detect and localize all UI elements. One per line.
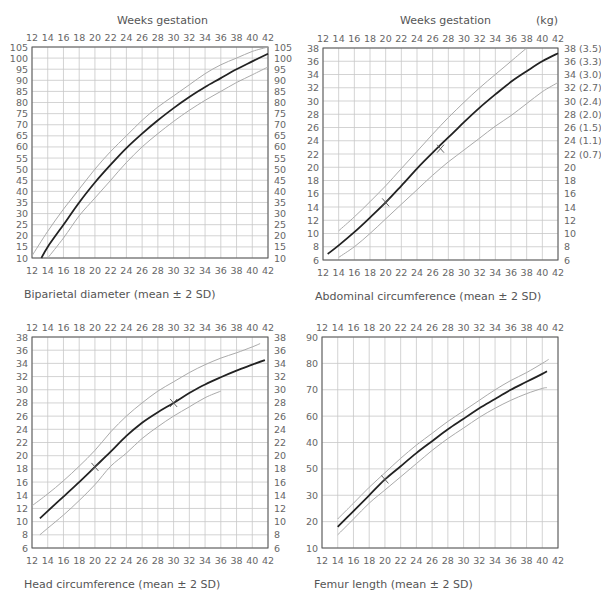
x-tick-label-bottom: 40 bbox=[536, 555, 548, 566]
y-tick-label-right: 10 bbox=[274, 253, 286, 264]
y-tick-label-left: 12 bbox=[16, 503, 28, 514]
x-tick-label-bottom: 26 bbox=[136, 265, 148, 276]
x-tick-label-top: 18 bbox=[73, 32, 85, 43]
y-tick-label-left: 20 bbox=[16, 450, 28, 461]
y-tick-label-right: 10 bbox=[564, 228, 576, 239]
x-tick-label-top: 40 bbox=[536, 322, 548, 333]
x-tick-label-top: 18 bbox=[363, 322, 375, 333]
x-tick-label-bottom: 40 bbox=[246, 265, 258, 276]
y-tick-label-right: 65 bbox=[274, 130, 286, 141]
x-tick-label-top: 34 bbox=[489, 33, 501, 44]
x-tick-label-top: 26 bbox=[136, 32, 148, 43]
x-tick-label-bottom: 12 bbox=[316, 555, 328, 566]
y-tick-label-right: 14 bbox=[564, 202, 576, 213]
y-tick-label-left: 40 bbox=[16, 186, 28, 197]
y-tick-label-right: 55 bbox=[274, 153, 286, 164]
x-tick-label-bottom: 32 bbox=[183, 265, 195, 276]
x-tick-label-bottom: 24 bbox=[120, 555, 132, 566]
y-tick-label-left: 18 bbox=[307, 175, 319, 186]
y-tick-label-right: 30 bbox=[274, 208, 286, 219]
y-tick-label-left: 24 bbox=[16, 424, 28, 435]
x-tick-label-bottom: 42 bbox=[262, 555, 274, 566]
y-tick-label-left: 45 bbox=[16, 175, 28, 186]
chart-caption: Femur length (mean ± 2 SD) bbox=[314, 578, 473, 591]
y-tick-label-left: 8 bbox=[22, 529, 28, 540]
x-tick-label-top: 40 bbox=[246, 32, 258, 43]
y-tick-label-left: 15 bbox=[16, 241, 28, 252]
y-tick-label-right: 6 bbox=[274, 543, 280, 554]
y-tick-label-left: 70 bbox=[306, 384, 318, 395]
x-tick-label-top: 20 bbox=[89, 32, 101, 43]
x-tick-label-top: 32 bbox=[183, 322, 195, 333]
y-tick-label-right: 26 bbox=[274, 411, 286, 422]
y-tick-label-right: 70 bbox=[274, 119, 286, 130]
y-tick-label-right: 75 bbox=[274, 108, 286, 119]
x-tick-label-top: 42 bbox=[262, 322, 274, 333]
y-tick-label-left: 14 bbox=[307, 202, 319, 213]
x-tick-label-top: 32 bbox=[473, 322, 485, 333]
x-tick-label-bottom: 16 bbox=[347, 555, 359, 566]
y-tick-label-left: 26 bbox=[307, 122, 319, 133]
chart-caption: Biparietal diameter (mean ± 2 SD) bbox=[24, 288, 216, 301]
y-tick-label-right: 30 bbox=[274, 384, 286, 395]
y-tick-label-left: 6 bbox=[313, 255, 319, 266]
grid bbox=[32, 337, 268, 548]
y-tick-label-left: 50 bbox=[16, 164, 28, 175]
x-tick-label-top: 30 bbox=[458, 33, 470, 44]
kg-unit-label: (kg) bbox=[536, 14, 558, 27]
y-tick-label-right: 20 bbox=[564, 162, 576, 173]
x-tick-label-top: 22 bbox=[105, 322, 117, 333]
x-tick-label-top: 38 bbox=[520, 322, 532, 333]
chart-panel-biparietal-diameter: 1212141416161818202022222424262628283030… bbox=[10, 32, 292, 301]
y-tick-label-left: 12 bbox=[307, 215, 319, 226]
x-tick-label-bottom: 36 bbox=[215, 555, 227, 566]
x-tick-label-bottom: 28 bbox=[152, 265, 164, 276]
x-tick-label-top: 20 bbox=[379, 322, 391, 333]
y-tick-label-right: 18 bbox=[564, 175, 576, 186]
y-tick-label-right: 35 bbox=[274, 197, 286, 208]
y-tick-label-right: 80 bbox=[274, 97, 286, 108]
y-tick-label-left: 38 bbox=[307, 43, 319, 54]
x-tick-label-top: 22 bbox=[395, 322, 407, 333]
y-tick-label-left: 40 bbox=[306, 437, 318, 448]
y-tick-label-left: 95 bbox=[16, 64, 28, 75]
y-tick-label-right: 34 (3.0) bbox=[564, 69, 601, 80]
x-tick-label-bottom: 34 bbox=[489, 267, 501, 278]
x-tick-label-top: 36 bbox=[505, 33, 517, 44]
y-tick-label-left: 80 bbox=[16, 97, 28, 108]
y-tick-label-right: 12 bbox=[274, 503, 286, 514]
y-tick-label-left: 8 bbox=[313, 241, 319, 252]
y-tick-label-right: 105 bbox=[274, 42, 292, 53]
x-tick-label-top: 34 bbox=[489, 322, 501, 333]
y-tick-label-right: 34 bbox=[274, 358, 286, 369]
y-tick-label-left: 28 bbox=[16, 397, 28, 408]
x-tick-label-top: 26 bbox=[427, 33, 439, 44]
x-tick-label-bottom: 14 bbox=[332, 555, 344, 566]
x-tick-label-top: 28 bbox=[152, 322, 164, 333]
y-tick-label-right: 45 bbox=[274, 175, 286, 186]
y-tick-label-right: 18 bbox=[274, 463, 286, 474]
x-tick-label-top: 42 bbox=[262, 32, 274, 43]
y-tick-label-left: 16 bbox=[307, 188, 319, 199]
x-tick-label-bottom: 38 bbox=[230, 555, 242, 566]
x-tick-label-bottom: 40 bbox=[246, 555, 258, 566]
x-tick-label-top: 36 bbox=[505, 322, 517, 333]
x-tick-label-bottom: 38 bbox=[230, 265, 242, 276]
y-tick-label-left: 26 bbox=[16, 411, 28, 422]
x-tick-label-bottom: 22 bbox=[105, 265, 117, 276]
x-tick-label-top: 40 bbox=[246, 322, 258, 333]
y-tick-label-left: 10 bbox=[16, 516, 28, 527]
y-tick-label-left: 20 bbox=[307, 162, 319, 173]
x-tick-label-top: 30 bbox=[168, 32, 180, 43]
x-tick-label-top: 16 bbox=[57, 32, 69, 43]
x-tick-label-top: 14 bbox=[42, 32, 54, 43]
x-tick-label-bottom: 36 bbox=[505, 267, 517, 278]
y-tick-label-left: 34 bbox=[307, 69, 319, 80]
x-tick-label-bottom: 30 bbox=[458, 555, 470, 566]
x-tick-label-bottom: 18 bbox=[73, 265, 85, 276]
y-tick-label-right: 20 bbox=[274, 230, 286, 241]
y-tick-label-left: 70 bbox=[16, 119, 28, 130]
y-tick-label-right: 16 bbox=[274, 477, 286, 488]
y-tick-label-right: 14 bbox=[274, 490, 286, 501]
y-tick-label-left: 22 bbox=[16, 437, 28, 448]
